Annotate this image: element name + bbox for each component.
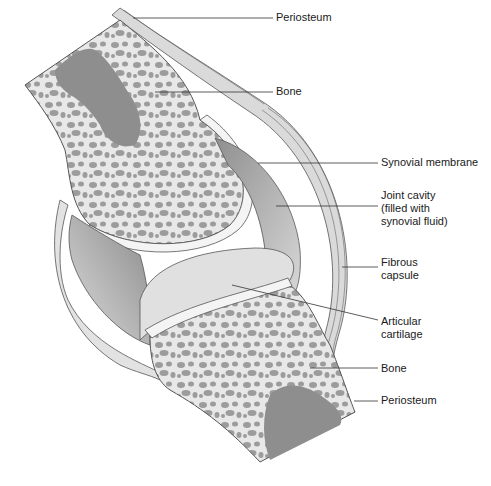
label-bone-bottom: Bone: [381, 362, 407, 375]
label-bone-top: Bone: [276, 85, 302, 98]
label-articular-cartilage: Articular cartilage: [381, 315, 423, 341]
label-fibrous-capsule: Fibrous capsule: [381, 256, 419, 282]
label-synovial-membrane: Synovial membrane: [381, 156, 478, 169]
label-periosteum-top: Periosteum: [276, 11, 332, 24]
label-periosteum-bottom: Periosteum: [381, 394, 437, 407]
label-joint-cavity: Joint cavity (filled with synovial fluid…: [381, 189, 448, 228]
synovial-joint-diagram: [0, 0, 491, 486]
